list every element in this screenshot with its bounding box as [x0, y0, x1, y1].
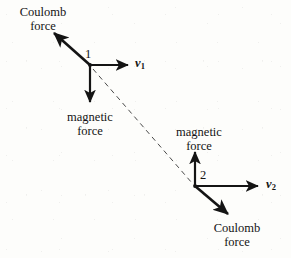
magnetic-force-label-1: magnetic force: [54, 111, 126, 138]
coulomb-force-label-1-line2: force: [6, 20, 80, 34]
coulomb-force-label-2: Coulomb force: [200, 222, 274, 249]
coulomb-force-vector-2: [195, 186, 228, 214]
vector-diagram-svg: [0, 0, 291, 258]
particle-2-label: 2: [200, 169, 206, 183]
coulomb-force-label-1-line1: Coulomb: [6, 6, 80, 20]
velocity-1-symbol: v: [135, 56, 141, 70]
velocity-2-label: v2: [266, 178, 276, 192]
velocity-2-subscript: 2: [272, 182, 276, 192]
particle-1-label: 1: [85, 48, 91, 62]
magnetic-force-label-1-line1: magnetic: [54, 111, 126, 125]
velocity-2-symbol: v: [266, 177, 272, 191]
velocity-1-label: v1: [135, 57, 145, 71]
velocity-1-subscript: 1: [141, 61, 145, 71]
coulomb-force-label-2-line1: Coulomb: [200, 222, 274, 236]
physics-diagram-canvas: Coulomb force 1 v1 magnetic force magnet…: [0, 0, 291, 258]
coulomb-force-label-1: Coulomb force: [6, 6, 80, 33]
magnetic-force-label-2: magnetic force: [166, 126, 232, 153]
magnetic-force-label-2-line1: magnetic: [166, 126, 232, 140]
coulomb-force-label-2-line2: force: [200, 236, 274, 250]
magnetic-force-label-1-line2: force: [54, 125, 126, 139]
magnetic-force-label-2-line2: force: [166, 140, 232, 154]
